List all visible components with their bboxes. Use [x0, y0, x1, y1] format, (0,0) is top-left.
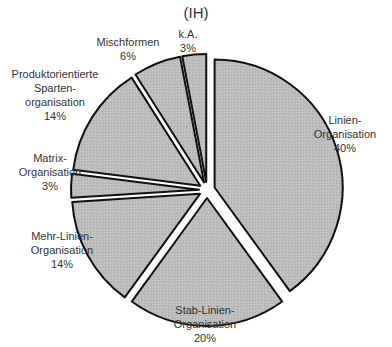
label-ka: k.A. 3%: [168, 27, 208, 55]
label-stab: Stab-Linien- Organisation 20%: [155, 303, 255, 345]
label-mehr: Mehr-Linien- Organisation 14%: [17, 229, 107, 271]
label-produkt: Produktorientierte Sparten- organisation…: [0, 67, 110, 123]
label-linien: Linien- Organisation 40%: [300, 113, 390, 155]
label-misch: Mischformen 6%: [88, 35, 168, 63]
label-matrix: Matrix- Organisation 3%: [10, 151, 90, 193]
